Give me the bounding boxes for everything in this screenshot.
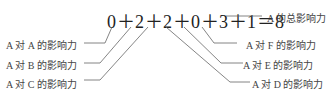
connector-a-on-a	[84, 27, 112, 43]
connector-a-on-e	[184, 27, 243, 63]
connector-a-on-f	[202, 27, 237, 43]
label-a-on-d: A 对 D 的影响力	[252, 76, 323, 91]
label-a-on-b: A 对 B 的影响力	[6, 57, 77, 72]
label-total-influence: A 的总影响力	[267, 10, 326, 25]
label-a-on-a: A 对 A 的影响力	[6, 37, 77, 52]
label-a-on-c: A 对 C 的影响力	[6, 76, 77, 91]
connector-a-on-b	[84, 27, 131, 63]
connector-a-on-c	[84, 27, 148, 80]
label-a-on-e: A 对 E 的影响力	[243, 57, 313, 72]
label-a-on-f: A 对 F 的影响力	[246, 37, 316, 52]
